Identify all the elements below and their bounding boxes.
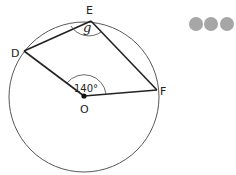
label-e: E — [86, 4, 93, 17]
label-f: F — [160, 85, 166, 98]
label-angle-140: 140° — [74, 83, 98, 94]
label-o: O — [80, 103, 89, 116]
circle-theorem-diagram: E D F O g 140° — [0, 0, 236, 175]
centre-point — [81, 93, 86, 98]
segment-ef — [91, 21, 157, 90]
label-angle-g: g — [83, 20, 91, 35]
segment-de — [24, 21, 91, 51]
dot-1 — [189, 17, 203, 31]
dot-3 — [220, 17, 234, 31]
dot-2 — [204, 17, 218, 31]
label-d: D — [11, 47, 19, 60]
